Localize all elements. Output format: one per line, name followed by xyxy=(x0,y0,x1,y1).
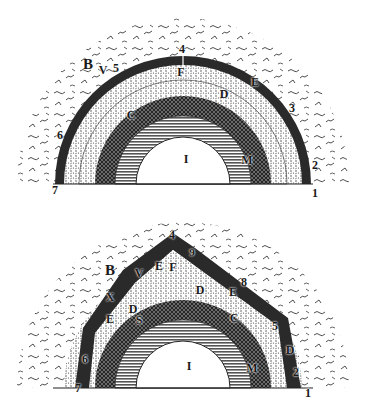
fig-bottom-label-e: E xyxy=(229,286,237,298)
fig-bottom-label-9: 9 xyxy=(189,247,195,258)
fig-bottom-label-6: 6 xyxy=(82,353,88,365)
fig-bottom-label-i: I xyxy=(187,360,192,372)
fig-bottom-label-v: V xyxy=(135,267,144,279)
fig-top-label-f: F xyxy=(177,66,184,78)
fig-bottom-label-e: E xyxy=(155,260,163,272)
fig-top-label-6: 6 xyxy=(57,129,63,141)
fig-bottom-label-c: C xyxy=(230,312,239,324)
fig-bottom-label-d: D xyxy=(196,284,205,296)
earth-cross-sections xyxy=(0,0,365,413)
fig-bottom-label-f: F xyxy=(169,261,176,273)
fig-top-label-4: 4 xyxy=(179,43,185,55)
diagram-stage: BV54FED3C6IM27149BVEF8XDEDESC5D6IM271 xyxy=(0,0,365,413)
fig-top-label-2: 2 xyxy=(312,159,318,171)
fig-bottom-label-d: D xyxy=(286,344,295,356)
fig-top-label-3: 3 xyxy=(289,102,295,114)
fig-bottom-label-4: 4 xyxy=(169,229,175,241)
fig-bottom-label-7: 7 xyxy=(75,382,81,394)
fig-top-label-5: 5 xyxy=(113,62,119,74)
fig-top-label-1: 1 xyxy=(312,187,318,199)
fig-top-label-c: C xyxy=(127,109,136,121)
fig-bottom-label-m: M xyxy=(246,362,257,374)
fig-bottom-label-x: X xyxy=(106,291,115,303)
fig-bottom-label-8: 8 xyxy=(241,276,247,288)
fig-bottom-label-s: S xyxy=(136,314,143,326)
fig-bottom-label-2: 2 xyxy=(293,366,299,378)
fig-bottom-label-5: 5 xyxy=(272,320,278,332)
fig-top-label-v: V xyxy=(99,64,108,76)
fig-top-label-d: D xyxy=(220,88,229,100)
fig-top-label-7: 7 xyxy=(52,184,58,196)
fig-top-label-b: B xyxy=(83,57,93,72)
fig-top-label-m: M xyxy=(241,154,252,166)
fig-bottom-label-1: 1 xyxy=(305,387,311,399)
fig-bottom-label-e: E xyxy=(106,313,114,325)
fig-bottom-label-b: B xyxy=(105,263,115,278)
fig-top-label-e: E xyxy=(251,76,259,88)
fig-top-label-i: I xyxy=(184,153,189,165)
